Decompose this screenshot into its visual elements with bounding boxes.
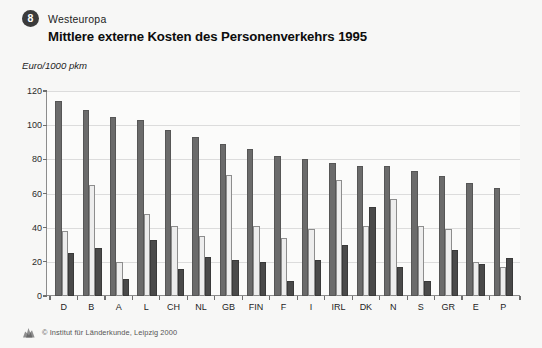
x-axis-cell-gr: GR <box>435 296 462 318</box>
figure-number-badge: 8 <box>22 10 39 27</box>
bar-e-bahn <box>479 264 485 296</box>
x-tick-label-nl: NL <box>187 302 214 312</box>
bar-group-p <box>490 91 517 296</box>
x-tick-nl <box>187 296 188 300</box>
bar-group-a <box>106 91 133 296</box>
x-tick-label-i: I <box>297 302 324 312</box>
bar-dk-bahn <box>369 207 375 296</box>
x-tick-a <box>104 296 105 300</box>
x-axis-cell-i: I <box>297 296 324 318</box>
y-tick-label-80: 80 <box>32 154 42 164</box>
x-tick-irl <box>324 296 325 300</box>
y-axis-unit-label: Euro/1000 pkm <box>22 60 87 71</box>
bar-group-ch <box>161 91 188 296</box>
bar-gr-bahn <box>452 250 458 296</box>
bar-b-bahn <box>95 248 101 296</box>
x-tick-label-b: B <box>77 302 104 312</box>
bar-group-e <box>462 91 489 296</box>
y-tick-label-60: 60 <box>32 189 42 199</box>
bar-group-l <box>133 91 160 296</box>
x-axis-cell-irl: IRL <box>325 296 352 318</box>
x-tick-label-e: E <box>462 302 489 312</box>
ifl-logo-icon <box>22 326 36 339</box>
x-axis-cell-p: P <box>490 296 517 318</box>
bar-group-nl <box>188 91 215 296</box>
bar-group-f <box>270 91 297 296</box>
x-axis-cell-dk: DK <box>352 296 379 318</box>
x-tick-f <box>269 296 270 300</box>
bar-n-bahn <box>397 267 403 296</box>
x-tick-label-s: S <box>407 302 434 312</box>
bar-group-i <box>298 91 325 296</box>
bar-group-n <box>380 91 407 296</box>
bar-p-bahn <box>506 258 512 296</box>
x-axis-cell-gb: GB <box>215 296 242 318</box>
x-axis-cell-e: E <box>462 296 489 318</box>
y-tick-label-0: 0 <box>37 291 42 301</box>
x-axis-cell-ch: CH <box>160 296 187 318</box>
x-tick-label-d: D <box>50 302 77 312</box>
bar-group-dk <box>352 91 379 296</box>
x-axis-cell-l: L <box>132 296 159 318</box>
bar-group-d <box>51 91 78 296</box>
x-tick-d <box>49 296 50 300</box>
x-tick-label-n: N <box>380 302 407 312</box>
x-tick-dk <box>352 296 353 300</box>
x-tick-label-p: P <box>490 302 517 312</box>
x-tick-gr <box>434 296 435 300</box>
x-tick-label-fin: FIN <box>242 302 269 312</box>
x-axis-cell-a: A <box>105 296 132 318</box>
page-title: Mittlere externe Kosten des Personenverk… <box>48 29 522 44</box>
bar-group-fin <box>243 91 270 296</box>
x-tick-e <box>461 296 462 300</box>
x-tick-p <box>489 296 490 300</box>
x-axis-cell-f: F <box>270 296 297 318</box>
plot-area: 020406080100120 <box>46 91 520 296</box>
bar-s-bahn <box>424 281 430 296</box>
bar-group-gr <box>435 91 462 296</box>
x-tick-label-gr: GR <box>435 302 462 312</box>
x-tick-gb <box>214 296 215 300</box>
bar-f-bahn <box>287 281 293 296</box>
bar-ch-bahn <box>178 269 184 296</box>
bar-groups <box>47 91 520 296</box>
figure-footer: © Institut für Länderkunde, Leipzig 2000 <box>22 326 177 339</box>
x-tick-ch <box>159 296 160 300</box>
chart-figure: 8 Westeuropa Mittlere externe Kosten des… <box>0 0 542 348</box>
header-row: 8 Westeuropa <box>22 10 522 27</box>
x-tick-label-gb: GB <box>215 302 242 312</box>
x-axis-cell-s: S <box>407 296 434 318</box>
x-tick-label-ch: CH <box>160 302 187 312</box>
x-tick-s <box>407 296 408 300</box>
x-axis-cell-n: N <box>380 296 407 318</box>
bar-i-bahn <box>315 260 321 296</box>
x-tick-b <box>77 296 78 300</box>
plot-area-wrapper: 020406080100120 <box>46 91 520 296</box>
y-tick-label-20: 20 <box>32 257 42 267</box>
x-tick-label-irl: IRL <box>325 302 352 312</box>
x-tick-label-f: F <box>270 302 297 312</box>
x-tick-label-dk: DK <box>352 302 379 312</box>
x-axis-labels: DBALCHNLGBFINFIIRLDKNSGREP <box>46 296 520 318</box>
copyright-text: © Institut für Länderkunde, Leipzig 2000 <box>42 328 177 337</box>
bar-group-irl <box>325 91 352 296</box>
figure-header: 8 Westeuropa Mittlere externe Kosten des… <box>22 10 522 44</box>
bar-irl-bahn <box>342 245 348 296</box>
x-tick-label-a: A <box>105 302 132 312</box>
y-tick-label-40: 40 <box>32 223 42 233</box>
bar-fin-bahn <box>260 262 266 296</box>
region-label: Westeuropa <box>48 13 106 25</box>
x-tick-l <box>132 296 133 300</box>
bar-group-s <box>407 91 434 296</box>
x-axis-end-tick <box>519 296 520 300</box>
x-tick-fin <box>242 296 243 300</box>
x-tick-i <box>297 296 298 300</box>
x-axis-cell-d: D <box>50 296 77 318</box>
x-axis-cell-b: B <box>77 296 104 318</box>
bar-d-bahn <box>68 253 74 296</box>
bar-l-bahn <box>150 240 156 296</box>
x-axis-cell-fin: FIN <box>242 296 269 318</box>
bar-group-gb <box>215 91 242 296</box>
x-axis-cell-nl: NL <box>187 296 214 318</box>
x-tick-n <box>379 296 380 300</box>
